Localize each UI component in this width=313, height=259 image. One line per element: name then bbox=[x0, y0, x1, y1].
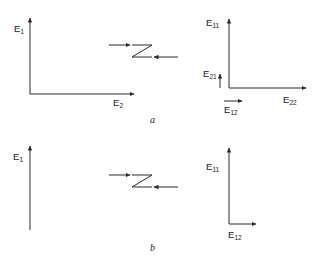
label-E2: E2 bbox=[113, 98, 123, 108]
panel-letter-a: a bbox=[150, 114, 155, 125]
panel-b-left-axes bbox=[18, 142, 58, 232]
label-E22: E22 bbox=[283, 95, 297, 105]
label-E11: E11 bbox=[206, 18, 219, 28]
label-E11: E11 bbox=[206, 162, 219, 172]
z-diagonal-stroke bbox=[132, 175, 152, 187]
z-diagonal-stroke bbox=[132, 45, 152, 57]
panel-b-network-Z bbox=[108, 168, 180, 194]
panel-b-right-axes bbox=[218, 144, 288, 236]
label-E21: E21 bbox=[203, 69, 217, 79]
label-E1: E1 bbox=[14, 24, 24, 34]
label-E12: E12 bbox=[224, 105, 238, 115]
panel-a-network-Z bbox=[108, 38, 180, 64]
figure-canvas: E1 E2 E11 E22 E21 E12 a bbox=[0, 0, 313, 259]
panel-b: E1 E11 E12 b bbox=[0, 130, 313, 259]
panel-letter-b: b bbox=[150, 242, 155, 253]
label-E12: E12 bbox=[228, 230, 242, 240]
panel-a: E1 E2 E11 E22 E21 E12 a bbox=[0, 0, 313, 130]
label-E1: E1 bbox=[13, 152, 23, 162]
